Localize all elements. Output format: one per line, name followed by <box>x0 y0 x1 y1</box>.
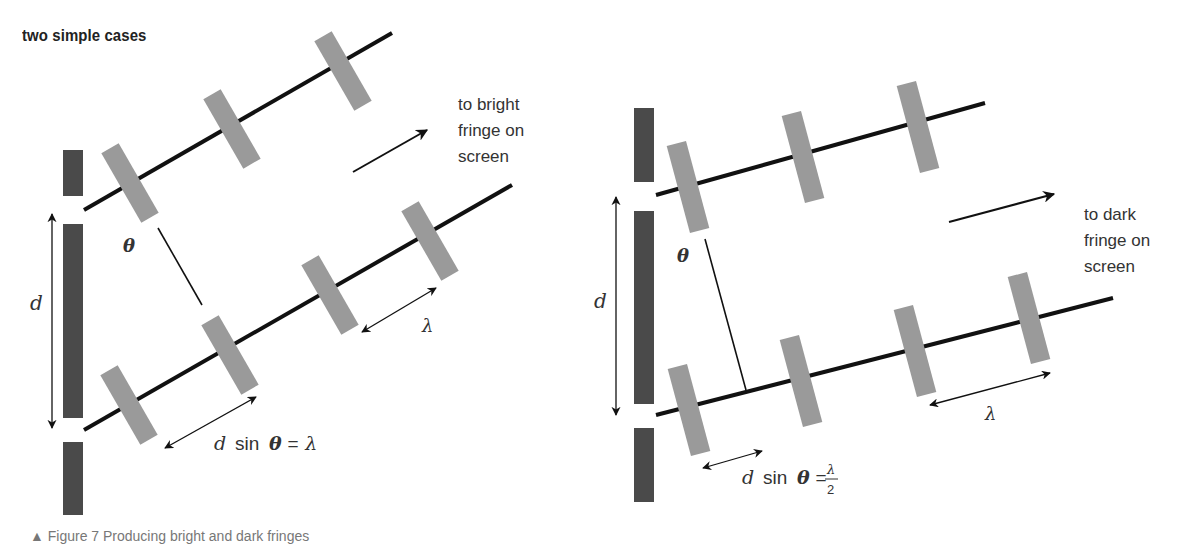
right-wavelength-label: λ <box>984 403 996 424</box>
left-diagram-bright: d θ to bright fringe on screen λ <box>30 31 529 515</box>
left-perpendicular-line <box>158 228 202 305</box>
right-perpendicular-line <box>705 239 746 390</box>
left-top-wavefronts <box>101 31 371 222</box>
right-diagram-dark: d θ to dark fringe on screen λ <box>594 81 1155 502</box>
right-top-wavefronts <box>667 81 940 233</box>
right-top-ray <box>656 103 985 195</box>
right-barrier <box>634 108 654 502</box>
left-direction-label: to bright fringe on screen <box>458 95 529 166</box>
left-barrier <box>63 150 83 515</box>
left-bottom-ray <box>84 185 512 430</box>
right-wavelength-arrow <box>930 373 1050 405</box>
left-d-label: d <box>30 291 43 315</box>
svg-text:d sin θ: d sin θ = <box>742 466 827 488</box>
right-d-label: d <box>594 289 607 313</box>
svg-text:λ: λ <box>826 462 835 477</box>
right-path-difference-label: d sin θ = λ 2 <box>742 462 838 497</box>
left-bottom-wavefronts <box>100 201 458 444</box>
right-theta-label: θ <box>677 245 689 266</box>
figure-caption: ▲ Figure 7 Producing bright and dark fri… <box>30 528 309 544</box>
right-direction-label: to dark fringe on screen <box>1084 205 1155 276</box>
right-direction-arrow <box>949 194 1054 222</box>
left-path-difference-label: d sin θ = λ <box>214 432 317 454</box>
left-theta-label: θ <box>123 235 135 256</box>
left-direction-arrow <box>353 130 427 172</box>
left-wavelength-label: λ <box>421 315 433 336</box>
svg-text:2: 2 <box>827 482 834 497</box>
